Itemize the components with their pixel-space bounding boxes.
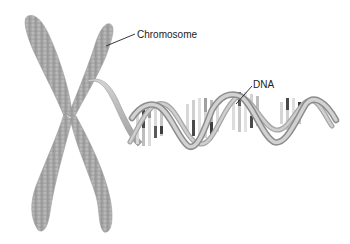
chromosome — [25, 15, 113, 232]
dna-helix — [88, 79, 336, 147]
chromosome-label: Chromosome — [137, 30, 197, 40]
chromosome-arm-lower-left — [32, 114, 72, 231]
dna-label: DNA — [253, 80, 274, 90]
chromosome-arm-upper-left — [25, 15, 72, 116]
chromosome-arm-lower-right — [70, 116, 112, 232]
chromosome-arm-upper-right — [68, 24, 113, 118]
